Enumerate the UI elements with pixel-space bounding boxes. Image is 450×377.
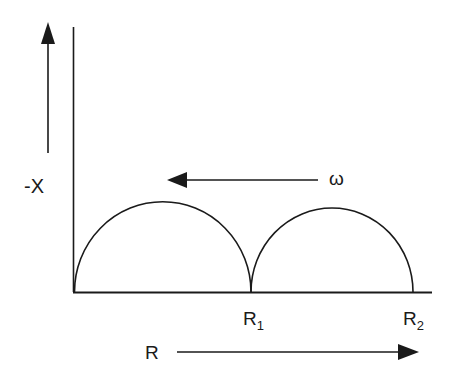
y-axis-label: -X bbox=[24, 175, 44, 197]
impedance-diagram: -X ω R1 R2 R bbox=[0, 0, 450, 377]
r1-label: R1 bbox=[243, 308, 264, 333]
x-direction-arrow bbox=[177, 344, 419, 360]
y-direction-arrow bbox=[41, 22, 55, 153]
arrowhead-right-icon bbox=[398, 344, 419, 360]
arrowhead-up-icon bbox=[41, 22, 55, 44]
r2-label: R2 bbox=[403, 308, 424, 333]
omega-label: ω bbox=[329, 168, 344, 189]
omega-arrow bbox=[167, 172, 318, 188]
arrowhead-left-icon bbox=[167, 172, 187, 188]
arc-2 bbox=[251, 208, 413, 292]
arc-1 bbox=[75, 202, 252, 292]
x-axis-label: R bbox=[145, 342, 159, 363]
